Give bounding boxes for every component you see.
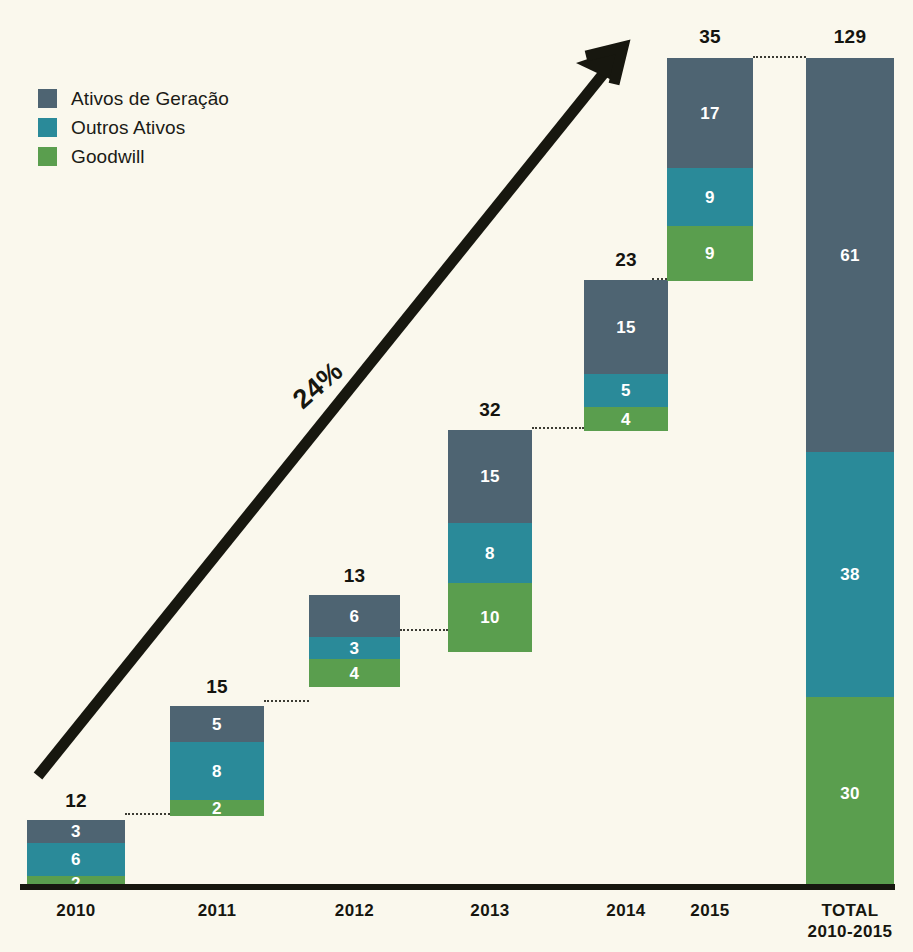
- plot-area: 12 3 6 2 15 5 8: [0, 0, 913, 890]
- bar-stack-2012: 6 3 4: [309, 595, 400, 687]
- connector-2013-2014: [532, 427, 584, 429]
- axis-tick-total: TOTAL 2010-2015: [800, 900, 900, 943]
- segment-value: 15: [616, 319, 636, 336]
- bar-group-2012: 13 6 3 4: [309, 595, 400, 890]
- segment-value: 3: [350, 640, 360, 657]
- segment-value: 2: [212, 800, 222, 817]
- segment-2015-outros-ativos: 9: [667, 168, 753, 226]
- segment-total-ativos-de-geracao: 61: [806, 58, 894, 452]
- growth-rate-label: 24%: [287, 356, 349, 416]
- segment-value: 8: [485, 545, 495, 562]
- axis-tick-2012: 2012: [309, 900, 400, 921]
- bar-stack-2015: 17 9 9: [667, 58, 753, 281]
- segment-2014-outros-ativos: 5: [584, 374, 668, 407]
- segment-value: 8: [212, 763, 222, 780]
- axis-tick-label-text: 2012: [335, 901, 374, 920]
- segment-value: 17: [700, 105, 720, 122]
- segment-2010-ativos-de-geracao: 3: [27, 820, 125, 843]
- axis-tick-2014: 2014: [584, 900, 668, 921]
- bar-group-2015: 35 17 9 9: [667, 58, 753, 890]
- bar-stack-2011: 5 8 2: [170, 706, 264, 816]
- segment-2012-goodwill: 4: [309, 659, 400, 687]
- segment-value: 61: [840, 247, 860, 264]
- bar-total-2013: 32: [448, 399, 532, 421]
- segment-value: 9: [705, 245, 715, 262]
- segment-value: 3: [71, 823, 81, 840]
- bar-stack-total: 61 38 30: [806, 58, 894, 890]
- segment-2013-ativos-de-geracao: 15: [448, 430, 532, 523]
- segment-2013-outros-ativos: 8: [448, 523, 532, 583]
- axis-tick-label-text: 2015: [690, 901, 729, 920]
- bar-total-2015: 35: [667, 26, 753, 48]
- segment-total-outros-ativos: 38: [806, 452, 894, 697]
- bar-total-2010: 12: [27, 790, 125, 812]
- segment-2014-goodwill: 4: [584, 407, 668, 431]
- bar-group-2010: 12 3 6 2: [27, 820, 125, 890]
- segment-value: 30: [840, 785, 860, 802]
- connector-2012-2013: [400, 629, 448, 631]
- segment-2013-goodwill: 10: [448, 583, 532, 652]
- segment-2012-ativos-de-geracao: 6: [309, 595, 400, 637]
- segment-value: 6: [350, 608, 360, 625]
- segment-2011-ativos-de-geracao: 5: [170, 706, 264, 742]
- stacked-bar-chart: Ativos de Geração Outros Ativos Goodwill…: [0, 0, 913, 952]
- axis-tick-2011: 2011: [170, 900, 264, 921]
- bar-group-2013: 32 15 8 10: [448, 430, 532, 890]
- axis-tick-label-text: 2011: [198, 901, 236, 920]
- segment-2014-ativos-de-geracao: 15: [584, 280, 668, 374]
- bar-total-2011: 15: [170, 676, 264, 698]
- bar-total-2012: 13: [309, 565, 400, 587]
- connector-2015-total: [753, 56, 806, 58]
- segment-2012-outros-ativos: 3: [309, 637, 400, 659]
- axis-tick-label-text: TOTAL: [821, 901, 878, 920]
- segment-2011-outros-ativos: 8: [170, 742, 264, 800]
- axis-tick-label-text: 2013: [470, 901, 509, 920]
- segment-value: 38: [840, 566, 860, 583]
- bar-stack-2014: 15 5 4: [584, 280, 668, 431]
- segment-value: 10: [480, 609, 500, 626]
- segment-value: 5: [621, 382, 631, 399]
- bar-total-total: 129: [806, 26, 894, 48]
- bar-group-2014: 23 15 5 4: [584, 280, 668, 890]
- bar-group-2011: 15 5 8 2: [170, 706, 264, 890]
- segment-value: 6: [71, 851, 81, 868]
- axis-tick-sublabel-text: 2010-2015: [800, 921, 900, 942]
- axis-tick-label-text: 2014: [606, 901, 645, 920]
- segment-total-goodwill: 30: [806, 697, 894, 890]
- segment-value: 5: [212, 716, 222, 733]
- bar-stack-2013: 15 8 10: [448, 430, 532, 652]
- segment-value: 15: [480, 468, 500, 485]
- axis-tick-label-text: 2010: [56, 901, 95, 920]
- axis-tick-2015: 2015: [667, 900, 753, 921]
- segment-value: 4: [350, 665, 360, 682]
- bar-group-total: 129 61 38 30: [806, 58, 894, 890]
- segment-value: 4: [621, 411, 631, 428]
- connector-2011-2012: [264, 700, 309, 702]
- axis-tick-2013: 2013: [448, 900, 532, 921]
- segment-2010-outros-ativos: 6: [27, 843, 125, 876]
- x-axis-line: [20, 884, 895, 890]
- bar-stack-2010: 3 6 2: [27, 820, 125, 890]
- segment-value: 9: [705, 189, 715, 206]
- segment-2011-goodwill: 2: [170, 800, 264, 816]
- segment-2015-ativos-de-geracao: 17: [667, 58, 753, 168]
- connector-2010-2011: [125, 813, 170, 815]
- axis-tick-2010: 2010: [27, 900, 125, 921]
- bar-total-2014: 23: [584, 249, 668, 271]
- segment-2015-goodwill: 9: [667, 226, 753, 281]
